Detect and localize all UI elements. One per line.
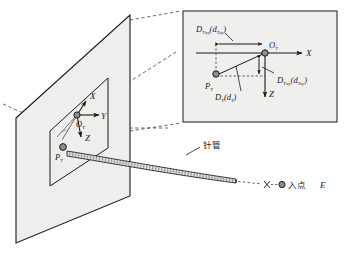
point-marker-pt — [60, 144, 67, 151]
inset-measure-label-diagonal: DT(dT) — [214, 92, 237, 103]
inset-callout-lines — [130, 11, 181, 131]
callout-line-bottom — [130, 123, 181, 131]
diagram-canvas: X Y Z OT PT 针管 入点 E — [0, 0, 344, 256]
entry-point-group — [264, 181, 285, 188]
axis-x-label: X — [89, 91, 96, 101]
entry-point-symbol: E — [319, 180, 326, 190]
inset-origin-marker-ot — [262, 50, 268, 56]
origin-marker-ot — [74, 112, 80, 118]
entry-point-label: 入点 — [288, 180, 306, 190]
inset-panel: OT PT X Z DTxy(dTxy) DTxy(dTxy) DT(dT) — [183, 11, 337, 122]
entry-dashed-line — [238, 182, 262, 185]
figure-root: X Y Z OT PT 针管 入点 E — [0, 0, 344, 256]
needle-label-leader — [186, 147, 200, 155]
inset-border — [183, 11, 337, 122]
needle-label: 针管 — [203, 140, 221, 150]
inset-axis-x-label: X — [305, 48, 312, 58]
callout-line-top — [130, 11, 181, 20]
inset-point-marker-pt — [213, 71, 219, 77]
entry-point-marker — [279, 181, 285, 187]
